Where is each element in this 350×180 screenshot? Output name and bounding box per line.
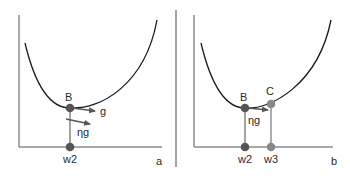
loss-curve [25,20,157,108]
point-w2 [66,143,75,152]
label-w3: w3 [263,153,278,165]
label-g: g [100,105,106,117]
panel-b: B C ηg w2 w3 b [194,15,337,167]
panel-label-a: a [156,155,163,167]
eta-g-vector-arrow [247,108,268,110]
g-vector-arrow [72,108,95,111]
panel-a: B g ηg w2 a [19,15,163,167]
diagram-canvas: B g ηg w2 a B C ηg w2 w3 b [0,0,350,180]
point-B [66,104,75,113]
point-w2 [241,143,250,152]
panel-label-b: b [331,155,337,167]
label-w2: w2 [62,153,77,165]
point-C [267,100,276,109]
label-eta-g: ηg [77,126,89,138]
label-eta-g: ηg [248,114,260,126]
label-B: B [240,91,247,103]
point-w3 [267,143,276,152]
label-B: B [65,91,72,103]
label-C: C [266,85,274,97]
point-B [241,104,250,113]
label-w2: w2 [237,153,252,165]
